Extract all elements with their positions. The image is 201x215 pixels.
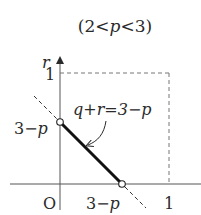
equation-label: q+r=3−p (73, 100, 152, 119)
line-segment (62, 124, 120, 182)
x-tick-3-minus-p: 3−p (86, 194, 120, 213)
line-extension-upper (34, 96, 57, 119)
open-endpoint-q-intercept (119, 181, 126, 188)
condition-title: (2<p<3) (78, 16, 152, 36)
leader-arrow-icon (88, 121, 106, 145)
open-endpoint-r-intercept (57, 119, 64, 126)
y-tick-3-minus-p: 3−p (14, 119, 48, 138)
diagram: (2<p<3) r 1 q+r=3−p 3−p O 3−p 1 (0, 0, 201, 215)
y-tick-1: 1 (45, 65, 55, 84)
x-tick-1: 1 (164, 194, 174, 213)
line-extension-lower (125, 187, 146, 208)
origin-label: O (43, 194, 56, 213)
